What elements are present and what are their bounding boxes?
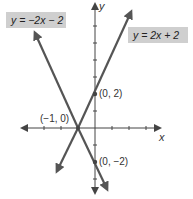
point-y-intercept-neg [93,160,97,164]
x-intercept-label: (−1, 0) [40,113,69,124]
x-axis [22,126,160,130]
equation-label-neg: y = −2x − 2 [6,12,66,28]
y-intercept-neg-label: (0, −2) [99,156,128,167]
y-axis-label: y [99,0,105,12]
y-intercept-pos-label: (0, 2) [99,88,122,99]
x-axis-label: x [159,131,165,143]
point-x-intercept [76,126,80,130]
point-y-intercept-pos [93,92,97,96]
equation-neg-text: y = −2x − 2 [11,14,63,26]
equation-label-pos: y = 2x + 2 [128,27,188,43]
equation-pos-text: y = 2x + 2 [133,29,179,41]
